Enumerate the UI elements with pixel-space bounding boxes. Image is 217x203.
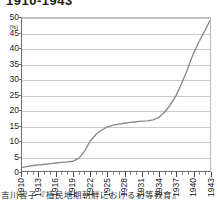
x-axis-minor-tick-mark	[33, 172, 34, 175]
x-axis-minor-tick-mark	[171, 172, 172, 175]
x-axis-minor-tick-mark	[165, 172, 166, 175]
y-axis-tick-label: 5	[3, 153, 19, 161]
y-axis-tick-label: 20	[3, 106, 19, 114]
y-axis: (%) 05101520253035404550	[0, 17, 19, 173]
x-axis-minor-tick-mark	[199, 172, 200, 175]
x-axis-minor-tick-mark	[153, 172, 154, 175]
x-axis-minor-tick-mark	[148, 172, 149, 175]
data-line-svg	[22, 18, 210, 171]
x-axis-tick-mark	[38, 172, 39, 177]
x-axis-minor-tick-mark	[188, 172, 189, 175]
x-axis-tick-mark	[107, 172, 108, 177]
x-axis-tick-mark	[21, 172, 22, 177]
y-axis-tick-label: 35	[3, 60, 19, 68]
y-axis-tick-label: 15	[3, 122, 19, 130]
x-axis-tick-mark	[125, 172, 126, 177]
y-axis-tick-label: 25	[3, 91, 19, 99]
x-axis-minor-tick-mark	[182, 172, 183, 175]
x-axis-tick-label: 1943	[207, 178, 216, 197]
x-axis-minor-tick-mark	[84, 172, 85, 175]
chart-figure: 1910-1943 (%) 05101520253035404550 19101…	[0, 0, 217, 203]
x-axis-tick-mark	[73, 172, 74, 177]
series-line-enrollment-rate	[22, 20, 210, 167]
x-axis-minor-tick-mark	[61, 172, 62, 175]
x-axis-minor-tick-mark	[130, 172, 131, 175]
x-axis-minor-tick-mark	[27, 172, 28, 175]
x-axis-tick-mark	[159, 172, 160, 177]
y-axis-tick-label: 0	[3, 168, 19, 176]
x-axis-minor-tick-mark	[67, 172, 68, 175]
x-axis-minor-tick-mark	[113, 172, 114, 175]
x-axis-minor-tick-mark	[44, 172, 45, 175]
x-axis-tick-mark	[142, 172, 143, 177]
y-axis-tick-label: 30	[3, 75, 19, 83]
x-axis-minor-tick-mark	[102, 172, 103, 175]
x-axis-minor-tick-mark	[205, 172, 206, 175]
source-caption: 吉川容子『植民地期朝鮮における初等教育』	[1, 190, 181, 201]
x-axis-tick-mark	[90, 172, 91, 177]
y-axis-tick-label: 40	[3, 44, 19, 52]
x-axis-minor-tick-mark	[136, 172, 137, 175]
y-axis-tick-label: 10	[3, 137, 19, 145]
chart-title: 1910-1943	[6, 0, 73, 5]
x-axis-minor-tick-mark	[96, 172, 97, 175]
x-axis-tick-mark	[56, 172, 57, 177]
x-axis-minor-tick-mark	[119, 172, 120, 175]
x-axis-tick-mark	[194, 172, 195, 177]
x-axis-tick-label: 1940	[189, 178, 198, 197]
plot-area	[21, 17, 211, 172]
x-axis-tick-mark	[211, 172, 212, 177]
y-axis-tick-label: 45	[3, 29, 19, 37]
x-axis-minor-tick-mark	[79, 172, 80, 175]
x-axis-minor-tick-mark	[50, 172, 51, 175]
data-line-wrap	[22, 18, 210, 171]
y-axis-tick-label: 50	[3, 13, 19, 21]
x-axis-tick-mark	[176, 172, 177, 177]
